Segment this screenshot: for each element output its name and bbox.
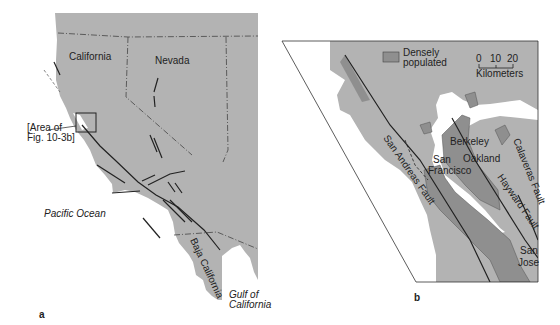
figure-canvas: California Nevada [Area of Fig. 10-3b] P…: [0, 0, 560, 325]
label-francisco: Francisco: [428, 165, 472, 176]
label-berkeley: Berkeley: [450, 136, 489, 147]
map-panel-b: Densely populated 0 10 20 Kilometers Ber…: [282, 41, 548, 303]
map-panel-a: California Nevada [Area of Fig. 10-3b] P…: [27, 13, 272, 320]
label-san-jose-2: Jose: [518, 257, 540, 268]
label-pacific-ocean: Pacific Ocean: [44, 208, 106, 219]
panel-b-label: b: [414, 292, 420, 303]
label-nevada: Nevada: [155, 55, 190, 66]
legend-line2: populated: [403, 57, 447, 68]
svg-text:20: 20: [507, 53, 519, 64]
svg-text:0: 0: [476, 53, 482, 64]
legend-swatch: [383, 52, 399, 62]
label-oakland: Oakland: [463, 153, 500, 164]
scale-unit: Kilometers: [476, 68, 523, 79]
callout-line2: Fig. 10-3b]: [27, 132, 75, 143]
label-san-jose-1: San: [520, 245, 538, 256]
label-gulf-line2: California: [229, 299, 272, 310]
panel-a-label: a: [39, 309, 45, 320]
label-california: California: [69, 51, 112, 62]
svg-text:10: 10: [490, 53, 502, 64]
label-san: San: [433, 154, 451, 165]
